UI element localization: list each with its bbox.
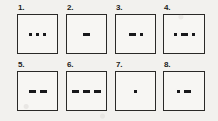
pattern-cell: 6. <box>66 71 107 111</box>
dash-mark-icon <box>29 90 36 93</box>
dash-mark-icon <box>129 33 136 36</box>
dash-mark-icon <box>83 90 90 93</box>
pattern-box <box>115 14 156 54</box>
dot-mark-icon <box>177 90 180 93</box>
mark-row <box>177 72 191 110</box>
pattern-cell: 1. <box>17 14 58 54</box>
cell-number-label: 3. <box>116 3 122 13</box>
pattern-cell: 2. <box>66 14 107 54</box>
pattern-box <box>17 71 58 111</box>
cell-number-label: 2. <box>67 3 73 13</box>
dot-mark-icon <box>192 33 195 36</box>
mark-row <box>72 72 101 110</box>
dot-mark-icon <box>134 90 137 93</box>
pattern-box <box>163 71 205 111</box>
pattern-cell: 7. <box>115 71 156 111</box>
mark-row <box>29 15 46 53</box>
dot-mark-icon <box>43 33 46 36</box>
mark-row <box>134 72 137 110</box>
dot-mark-icon <box>29 33 32 36</box>
dash-mark-icon <box>94 90 101 93</box>
mark-row <box>83 15 90 53</box>
dash-mark-icon <box>181 33 188 36</box>
pattern-cell: 5. <box>17 71 58 111</box>
pattern-box <box>163 14 205 54</box>
cell-number-label: 7. <box>116 60 122 70</box>
pattern-box <box>66 71 107 111</box>
dot-mark-icon <box>174 33 177 36</box>
mark-row <box>29 72 47 110</box>
mark-row <box>174 15 195 53</box>
dot-mark-icon <box>36 33 39 36</box>
dot-mark-icon <box>140 33 143 36</box>
cell-number-label: 8. <box>164 60 170 70</box>
pattern-grid: 1.2.3.4.5.6.7.8. <box>0 0 218 121</box>
cell-number-label: 1. <box>18 3 24 13</box>
cell-number-label: 4. <box>164 3 170 13</box>
mark-row <box>129 15 143 53</box>
pattern-cell: 3. <box>115 14 156 54</box>
cell-number-label: 6. <box>67 60 73 70</box>
pattern-cell: 4. <box>163 14 205 54</box>
dash-mark-icon <box>83 33 90 36</box>
pattern-box <box>17 14 58 54</box>
dash-mark-icon <box>184 90 191 93</box>
pattern-box <box>115 71 156 111</box>
dash-mark-icon <box>40 90 47 93</box>
cell-number-label: 5. <box>18 60 24 70</box>
dash-mark-icon <box>72 90 79 93</box>
pattern-box <box>66 14 107 54</box>
pattern-cell: 8. <box>163 71 205 111</box>
